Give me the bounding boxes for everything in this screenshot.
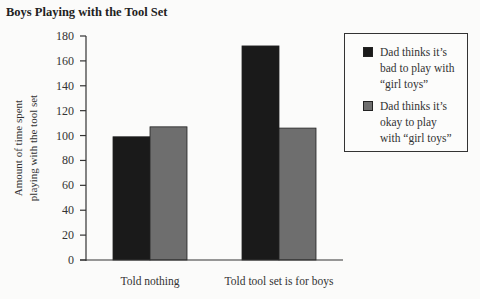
legend-swatch-dad-okay — [363, 101, 373, 111]
y-tick-label: 120 — [56, 104, 74, 118]
x-tick-label: Told tool set is for boys — [225, 275, 334, 288]
y-axis-label: playing with the tool set — [27, 95, 39, 201]
bar-dad-bad-told-for-boys — [242, 46, 279, 260]
y-tick-label: 100 — [56, 129, 74, 143]
legend-swatch-dad-bad — [363, 47, 373, 57]
x-tick-label: Told nothing — [121, 275, 180, 288]
y-axis-label: Amount of time spent — [12, 100, 24, 196]
y-tick-label: 60 — [62, 178, 74, 192]
y-tick-label: 160 — [56, 54, 74, 68]
y-tick-label: 80 — [62, 153, 74, 167]
legend-line: bad to play with — [380, 60, 472, 76]
legend-label-dad-okay: Dad thinks it’s okay to play with “girl … — [380, 98, 472, 146]
legend-label-dad-bad: Dad thinks it’s bad to play with “girl t… — [380, 44, 472, 92]
bar-dad-okay-told-nothing — [150, 127, 187, 260]
legend: Dad thinks it’s bad to play with “girl t… — [344, 33, 468, 152]
y-tick-label: 140 — [56, 79, 74, 93]
y-tick-label: 40 — [62, 203, 74, 217]
legend-line: with “girl toys” — [380, 130, 472, 146]
legend-line: okay to play — [380, 114, 472, 130]
legend-line: Dad thinks it’s — [380, 98, 472, 114]
y-tick-label: 180 — [56, 29, 74, 43]
bar-dad-bad-told-nothing — [113, 137, 150, 260]
bar-dad-okay-told-for-boys — [279, 128, 316, 260]
y-tick-label: 0 — [68, 253, 74, 267]
legend-line: “girl toys” — [380, 76, 472, 92]
y-tick-label: 20 — [62, 228, 74, 242]
legend-line: Dad thinks it’s — [380, 44, 472, 60]
